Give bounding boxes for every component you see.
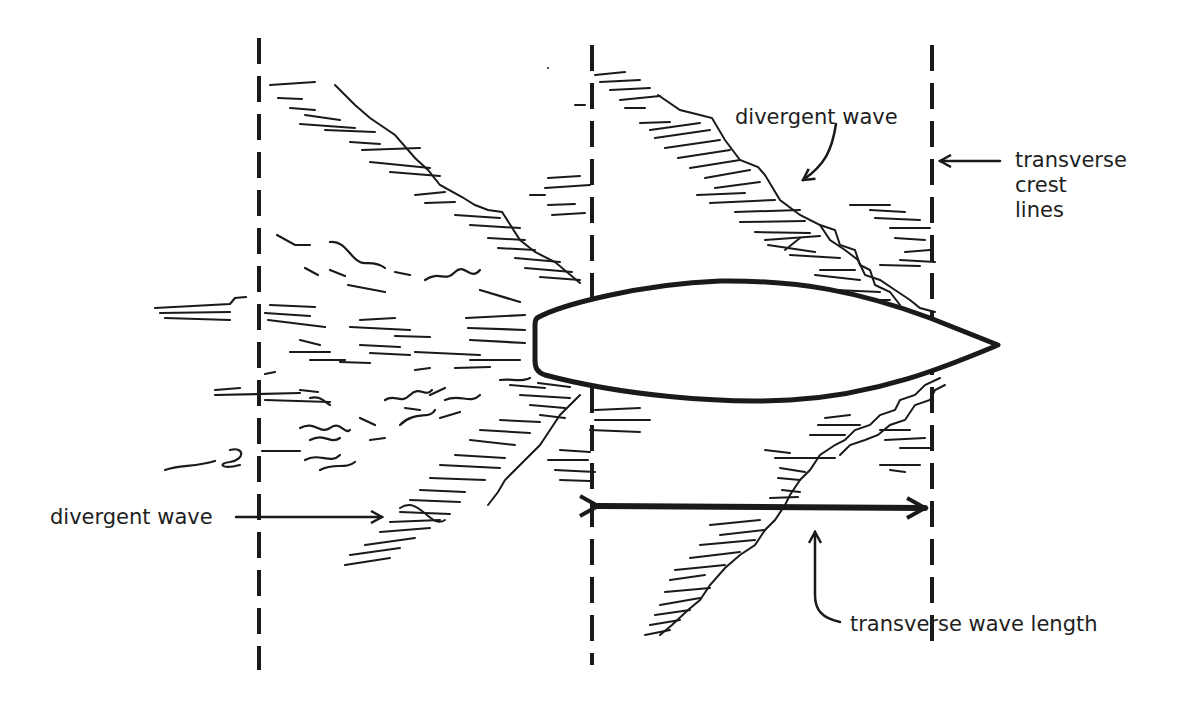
wave-diagram — [0, 0, 1183, 710]
divergent-wave-upper-left — [270, 68, 590, 283]
turbulent-wake — [155, 235, 525, 374]
label-divergent-wave-left: divergent wave — [50, 505, 213, 529]
label-lines: lines — [1015, 198, 1127, 223]
label-crest: crest — [1015, 173, 1127, 198]
arrow-divergent-wave-top — [803, 124, 836, 180]
arrow-transverse-wave-length — [815, 532, 840, 622]
divergent-wave-lower-left — [345, 385, 650, 565]
label-transverse: transverse — [1015, 148, 1127, 173]
label-transverse-wave-length: transverse wave length — [850, 612, 1098, 636]
wavelength-double-arrow — [598, 506, 925, 508]
label-divergent-wave-top: divergent wave — [735, 105, 898, 129]
label-transverse-crest-lines: transverse crest lines — [1015, 148, 1127, 223]
turbulent-wake-lower — [165, 378, 570, 470]
